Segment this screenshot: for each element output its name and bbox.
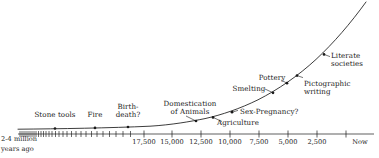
exponential-timeline-figure: Stone tools Fire Birth- death? Domestica… xyxy=(0,0,379,158)
leader-domestication xyxy=(186,116,196,121)
tick-label-10000: 10,000 xyxy=(218,139,241,146)
label-agriculture: Agriculture xyxy=(217,119,259,127)
marker-birth-death xyxy=(127,126,130,129)
tick-label-12500: 12,500 xyxy=(189,139,212,146)
axis-left-caption-line1: 2-4 million xyxy=(1,136,37,143)
tick-label-2500: 2,500 xyxy=(307,139,326,146)
label-birth-death-line2: death? xyxy=(116,111,141,119)
label-pictographic-line2: writing xyxy=(304,88,331,96)
label-smelting: Smelting xyxy=(233,85,266,93)
axis-group xyxy=(18,131,374,138)
label-literate-line2: societies xyxy=(331,60,363,68)
leader-literate xyxy=(324,54,330,56)
tick-label-15000: 15,000 xyxy=(160,139,183,146)
axis-left-caption-line2: years ago xyxy=(1,146,34,153)
marker-stone-tools xyxy=(54,127,57,130)
marker-fire xyxy=(94,127,97,130)
tick-label-7500: 7,500 xyxy=(249,139,268,146)
leader-smelting xyxy=(265,89,273,93)
tick-label-5000: 5,000 xyxy=(278,139,297,146)
tick-label-now: Now xyxy=(352,139,368,146)
label-sex-pregnancy: Sex-Pregnancy? xyxy=(240,108,299,116)
label-stone-tools: Stone tools xyxy=(34,111,75,119)
label-pottery: Pottery xyxy=(259,74,286,82)
tick-label-17500: 17,500 xyxy=(132,139,155,146)
label-domestication-line2: of Animals xyxy=(171,108,210,116)
label-fire: Fire xyxy=(87,111,102,119)
